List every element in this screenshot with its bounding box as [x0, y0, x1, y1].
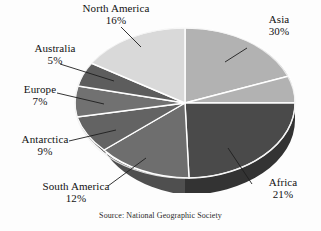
chart-source-caption: Source: National Geographic Society: [0, 211, 321, 220]
slice-label-africa: Africa 21%: [252, 176, 314, 201]
slice-label-antarctica-pct: 9%: [2, 145, 88, 157]
slice-label-antarctica: Antarctica 9%: [2, 133, 88, 158]
slice-label-asia: Asia 30%: [248, 13, 310, 38]
slice-label-north-america: North America 16%: [60, 2, 172, 27]
slice-label-africa-name: Africa: [269, 176, 298, 188]
slice-label-asia-name: Asia: [269, 13, 290, 25]
slice-label-south-america-pct: 12%: [18, 192, 134, 204]
slice-label-europe: Europe 7%: [4, 83, 76, 108]
slice-label-australia-name: Australia: [34, 42, 75, 54]
slice-label-africa-pct: 21%: [252, 188, 314, 200]
slice-label-australia-pct: 5%: [14, 54, 96, 66]
slice-label-north-america-name: North America: [83, 2, 150, 14]
slice-label-europe-pct: 7%: [4, 95, 76, 107]
slice-label-north-america-pct: 16%: [60, 14, 172, 26]
pie-chart-figure: North America 16% Asia 30% Africa 21% Au…: [0, 0, 321, 231]
slice-label-europe-name: Europe: [24, 83, 56, 95]
slice-label-australia: Australia 5%: [14, 42, 96, 67]
slice-label-south-america-name: South America: [43, 180, 110, 192]
slice-label-antarctica-name: Antarctica: [22, 133, 69, 145]
slice-label-asia-pct: 30%: [248, 25, 310, 37]
slice-label-south-america: South America 12%: [18, 180, 134, 205]
